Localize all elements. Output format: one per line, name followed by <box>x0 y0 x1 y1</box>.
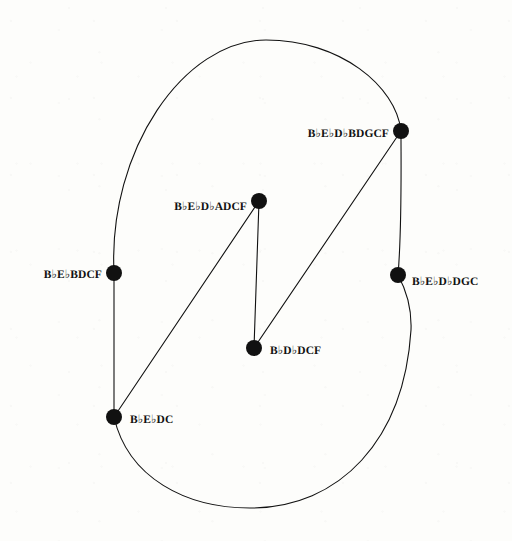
node-label-top-right: B♭E♭D♭BDGCF <box>308 126 389 140</box>
node-label-bottom-left: B♭E♭DC <box>130 412 173 426</box>
edge-right-to-topright-arc <box>398 131 401 275</box>
edge-bottomleft-to-centertop <box>114 201 259 417</box>
graph-node-right[interactable] <box>390 267 406 283</box>
graph-node-bottom-left[interactable] <box>106 409 122 425</box>
node-label-right: B♭E♭D♭DGC <box>412 274 478 288</box>
diagram-canvas: B♭E♭D♭BDGCF B♭E♭D♭ADCF B♭E♭BDCF B♭E♭D♭DG… <box>0 0 512 541</box>
edges-layer <box>114 40 411 508</box>
node-label-center-bottom: B♭D♭DCF <box>270 343 321 357</box>
graph-node-center-top[interactable] <box>251 193 267 209</box>
graph-node-left[interactable] <box>106 265 122 281</box>
edge-bottomleft-to-right-arc <box>114 275 411 508</box>
edge-centerbottom-to-topright <box>254 131 401 348</box>
graph-node-center-bottom[interactable] <box>246 340 262 356</box>
nodes-layer <box>106 123 409 425</box>
graph-node-top-right[interactable] <box>393 123 409 139</box>
node-label-left: B♭E♭BDCF <box>44 267 102 281</box>
node-label-center-top: B♭E♭D♭ADCF <box>174 199 247 213</box>
edge-centertop-to-centerbottom <box>254 201 259 348</box>
